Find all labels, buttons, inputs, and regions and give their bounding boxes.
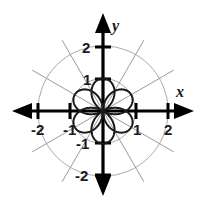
x-tick-label--2: -2	[31, 122, 44, 137]
x-axis-arrow-left	[12, 103, 32, 119]
y-axis-arrow-down	[95, 176, 111, 196]
y-tick-label--1: -1	[76, 136, 89, 151]
y-tick-label--2: -2	[75, 168, 88, 183]
y-tick-label-2: 2	[82, 40, 90, 55]
x-tick-label--1: -1	[63, 122, 76, 137]
x-tick-label-1: 1	[133, 122, 141, 137]
polar-rose-figure: -2 -1 1 2 2 1 -1 -2 x y	[0, 0, 201, 200]
y-axis-arrow-up	[95, 13, 111, 33]
x-tick-label-2: 2	[164, 122, 172, 137]
y-axis-label: y	[112, 18, 119, 34]
x-axis-arrow-right	[174, 103, 194, 119]
y-tick-label-1: 1	[83, 72, 91, 87]
graph-canvas	[0, 0, 201, 200]
x-axis-label: x	[176, 84, 184, 100]
